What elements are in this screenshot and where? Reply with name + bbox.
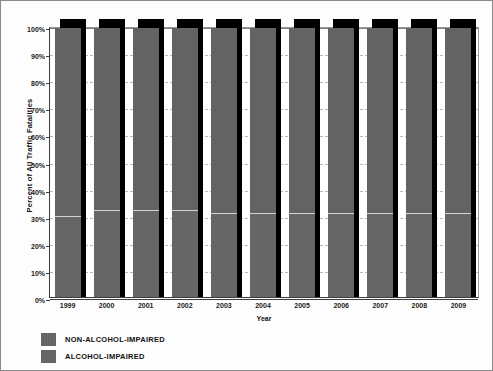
y-axis-tick-label: 70% xyxy=(31,107,45,114)
bar-column[interactable]: 2001 xyxy=(133,28,159,297)
bar-column[interactable]: 2003 xyxy=(211,28,237,297)
y-axis-tick-label: 10% xyxy=(31,269,45,276)
bar-column[interactable]: 2009 xyxy=(445,28,471,297)
y-axis-tick-mark xyxy=(46,300,50,301)
bar-segment-non-alcohol-impaired[interactable] xyxy=(250,28,276,297)
bar-column[interactable]: 1999 xyxy=(55,28,81,297)
legend-swatch-alcohol-impaired xyxy=(41,350,56,363)
gridline-0%: 0% xyxy=(50,299,478,300)
bar-segment-alcohol-impaired[interactable] xyxy=(367,213,393,297)
x-axis-tick-label: 2007 xyxy=(367,302,393,309)
x-axis-tick-label: 2001 xyxy=(133,302,159,309)
y-axis-tick-label: 50% xyxy=(31,161,45,168)
bar-series-group: 1999200020012002200320042005200620072008… xyxy=(50,28,478,297)
x-axis-tick-label: 2009 xyxy=(445,302,471,309)
legend-label-alcohol-impaired: ALCOHOL-IMPAIRED xyxy=(65,352,145,361)
legend-swatch-non-alcohol-impaired xyxy=(41,333,56,346)
y-axis-title: Percent of All Traffic Fatalities xyxy=(25,36,34,276)
bar-segment-non-alcohol-impaired[interactable] xyxy=(211,28,237,297)
bar-segment-alcohol-impaired[interactable] xyxy=(133,210,159,297)
bar-segment-alcohol-impaired[interactable] xyxy=(445,213,471,297)
y-axis-tick-label: 60% xyxy=(31,134,45,141)
bar-segment-non-alcohol-impaired[interactable] xyxy=(367,28,393,297)
bar-segment-alcohol-impaired[interactable] xyxy=(328,213,354,297)
bar-segment-non-alcohol-impaired[interactable] xyxy=(328,28,354,297)
bar-segment-alcohol-impaired[interactable] xyxy=(55,216,81,297)
y-axis-tick-label: 90% xyxy=(31,53,45,60)
y-axis-tick-label: 100% xyxy=(27,26,45,33)
chart-legend: NON-ALCOHOL-IMPAIRED ALCOHOL-IMPAIRED xyxy=(41,331,165,365)
x-axis-tick-label: 2000 xyxy=(94,302,120,309)
bar-column[interactable]: 2004 xyxy=(250,28,276,297)
y-axis-tick-label: 40% xyxy=(31,188,45,195)
bar-column[interactable]: 2006 xyxy=(328,28,354,297)
bar-segment-alcohol-impaired[interactable] xyxy=(172,210,198,297)
x-axis-tick-label: 2004 xyxy=(250,302,276,309)
bar-segment-alcohol-impaired[interactable] xyxy=(211,213,237,297)
x-axis-tick-label: 2005 xyxy=(289,302,315,309)
bar-segment-alcohol-impaired[interactable] xyxy=(94,210,120,297)
legend-label-non-alcohol-impaired: NON-ALCOHOL-IMPAIRED xyxy=(65,335,165,344)
bar-segment-non-alcohol-impaired[interactable] xyxy=(172,28,198,297)
bar-segment-alcohol-impaired[interactable] xyxy=(289,213,315,297)
chart-figure: Percent of All Traffic Fatalities 0%10%2… xyxy=(0,0,493,371)
x-axis-tick-label: 1999 xyxy=(55,302,81,309)
bar-column[interactable]: 2000 xyxy=(94,28,120,297)
y-axis-tick-label: 80% xyxy=(31,80,45,87)
bar-segment-non-alcohol-impaired[interactable] xyxy=(133,28,159,297)
x-axis-tick-label: 2008 xyxy=(406,302,432,309)
x-axis-tick-label: 2002 xyxy=(172,302,198,309)
y-axis-tick-label: 30% xyxy=(31,215,45,222)
bar-column[interactable]: 2008 xyxy=(406,28,432,297)
bar-segment-non-alcohol-impaired[interactable] xyxy=(94,28,120,297)
legend-item-alcohol-impaired[interactable]: ALCOHOL-IMPAIRED xyxy=(41,348,165,365)
bar-segment-alcohol-impaired[interactable] xyxy=(406,213,432,297)
legend-item-non-alcohol-impaired[interactable]: NON-ALCOHOL-IMPAIRED xyxy=(41,331,165,348)
bar-segment-non-alcohol-impaired[interactable] xyxy=(406,28,432,297)
x-axis-tick-label: 2003 xyxy=(211,302,237,309)
y-axis-tick-label: 0% xyxy=(35,297,45,304)
bar-column[interactable]: 2007 xyxy=(367,28,393,297)
x-axis-title: Year xyxy=(49,315,479,322)
plot-area: 0%10%20%30%40%50%60%70%80%90%100% 199920… xyxy=(49,27,479,298)
bar-segment-non-alcohol-impaired[interactable] xyxy=(289,28,315,297)
bar-segment-non-alcohol-impaired[interactable] xyxy=(445,28,471,297)
bar-segment-alcohol-impaired[interactable] xyxy=(250,213,276,297)
y-axis-tick-label: 20% xyxy=(31,242,45,249)
x-axis-tick-label: 2006 xyxy=(328,302,354,309)
bar-column[interactable]: 2005 xyxy=(289,28,315,297)
bar-segment-non-alcohol-impaired[interactable] xyxy=(55,28,81,297)
bar-column[interactable]: 2002 xyxy=(172,28,198,297)
